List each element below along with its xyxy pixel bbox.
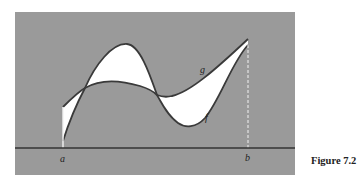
figure-caption: Figure 7.2: [311, 155, 356, 166]
label-g: g: [200, 64, 205, 75]
figure-7-2: a b g f Figure 7.2: [0, 0, 361, 185]
label-b: b: [245, 152, 250, 163]
label-a: a: [60, 153, 65, 164]
